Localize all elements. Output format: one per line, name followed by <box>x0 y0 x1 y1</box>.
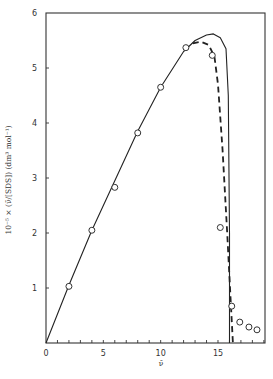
y-axis-label: 10⁻⁵ × (ν̄/[SDS]) (dm³ mol⁻¹) <box>4 125 13 234</box>
data-point <box>217 225 223 231</box>
x-tick-label: 10 <box>156 349 166 358</box>
chart: 051015123456 ν̄ 10⁻⁵ × (ν̄/[SDS]) (dm³ m… <box>0 0 273 379</box>
y-tick-label: 2 <box>32 229 37 238</box>
x-axis-label: ν̄ <box>159 359 164 368</box>
dashed-curve <box>193 42 233 343</box>
data-point <box>66 283 72 289</box>
y-tick-label: 1 <box>32 284 37 293</box>
data-point <box>209 52 215 58</box>
data-point <box>237 319 243 325</box>
x-tick-label: 0 <box>43 349 48 358</box>
data-point <box>183 45 189 51</box>
data-point <box>246 324 252 330</box>
y-tick-label: 5 <box>32 64 37 73</box>
x-tick-label: 5 <box>101 349 106 358</box>
curves <box>46 34 233 343</box>
data-point <box>229 303 235 309</box>
data-point <box>112 184 118 190</box>
data-point <box>89 227 95 233</box>
x-tick-label: 15 <box>213 349 223 358</box>
y-tick-label: 4 <box>32 119 37 128</box>
plot-frame <box>46 13 265 343</box>
y-tick-label: 6 <box>32 9 37 18</box>
data-point <box>135 130 141 136</box>
plot-border <box>46 13 265 343</box>
solid-curve <box>46 34 230 343</box>
data-point <box>254 327 260 333</box>
y-tick-label: 3 <box>32 174 37 183</box>
data-point <box>158 84 164 90</box>
